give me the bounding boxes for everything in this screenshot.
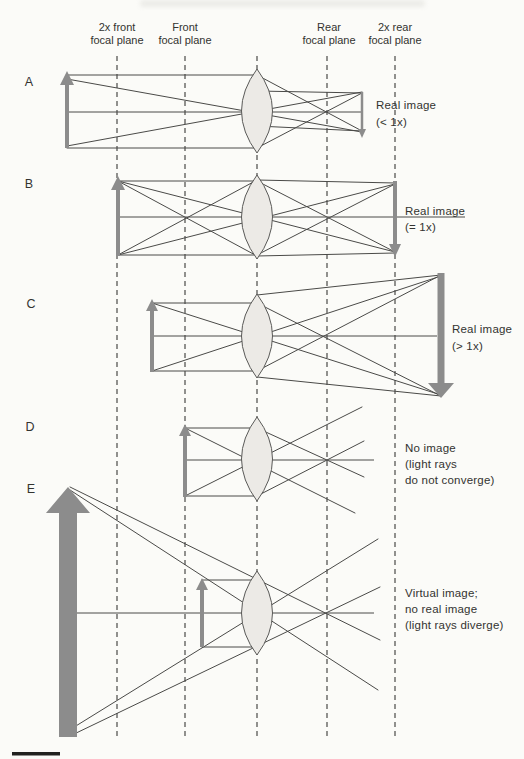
ray	[257, 126, 362, 131]
ray	[257, 303, 441, 396]
caption-line: (light rays diverge)	[405, 619, 504, 631]
ray	[257, 428, 364, 477]
ray	[257, 180, 395, 183]
lens	[242, 69, 273, 153]
virtual-image-arrow	[46, 487, 90, 737]
scan-artifact	[140, 0, 425, 7]
caption-d: No image (light rays do not converge)	[405, 442, 495, 486]
caption-b: Real image (= 1x)	[405, 205, 465, 233]
lens	[242, 175, 273, 259]
scale-bar	[12, 752, 60, 756]
row-c: C Real image (> 1x)	[26, 273, 512, 398]
caption-line: (light rays	[405, 458, 457, 470]
ray	[257, 253, 395, 256]
caption-line: Virtual image;	[405, 587, 478, 599]
caption-line: (< 1x)	[376, 116, 407, 128]
plane-label-2x-front-line1: 2x front	[99, 21, 136, 33]
plane-labels: 2x front focal plane Front focal plane R…	[90, 21, 421, 46]
ray	[257, 184, 395, 255]
plane-label-front-line1: Front	[172, 21, 198, 33]
caption-line: (= 1x)	[405, 221, 436, 233]
row-label-d: D	[25, 420, 34, 434]
plane-label-front-line2: focal plane	[158, 34, 211, 46]
caption-c: Real image (> 1x)	[452, 323, 512, 352]
caption-line: Real image	[405, 205, 465, 217]
image-arrow	[389, 181, 401, 257]
row-d: D No image (light rays do not converge)	[25, 407, 494, 513]
ray	[67, 79, 362, 132]
image-arrow-head	[358, 129, 366, 138]
caption-line: No image	[405, 442, 456, 454]
ray	[185, 407, 362, 496]
plane-label-rear-line2: focal plane	[302, 34, 355, 46]
caption-line: (> 1x)	[452, 340, 483, 352]
row-e: E Virtual image; no real image (light ra…	[27, 482, 504, 737]
ray	[257, 275, 441, 371]
object-arrow	[60, 71, 74, 148]
image-arrow	[358, 92, 366, 138]
row-label-e: E	[27, 482, 35, 496]
plane-label-rear-line1: Rear	[317, 21, 341, 33]
ray	[257, 441, 364, 496]
caption-line: no real image	[405, 603, 477, 615]
plane-label-2x-front-line2: focal plane	[90, 34, 143, 46]
ray	[70, 490, 378, 690]
lens	[242, 571, 273, 655]
ray	[257, 91, 362, 93]
lens	[242, 417, 273, 501]
caption-e: Virtual image; no real image (light rays…	[405, 587, 504, 631]
row-b: B Real image (= 1x)	[25, 175, 465, 259]
caption-line: do not converge)	[405, 474, 495, 486]
caption-line: Real image	[452, 323, 512, 335]
row-label-b: B	[25, 177, 33, 191]
plane-label-2x-rear-line1: 2x rear	[378, 21, 413, 33]
object-arrow	[111, 176, 125, 256]
row-label-a: A	[25, 75, 34, 89]
caption-line: Real image	[376, 99, 436, 111]
ray	[67, 92, 362, 146]
ray	[118, 181, 257, 256]
caption-a: Real image (< 1x)	[376, 99, 436, 128]
row-label-c: C	[26, 297, 35, 311]
plane-label-2x-rear-line2: focal plane	[368, 34, 421, 46]
lens-ray-diagram: 2x front focal plane Front focal plane R…	[0, 0, 524, 759]
row-a: A Real image (< 1x)	[25, 69, 436, 153]
scanned-figure-page: 2x front focal plane Front focal plane R…	[0, 0, 524, 759]
image-arrow-head	[428, 383, 454, 398]
